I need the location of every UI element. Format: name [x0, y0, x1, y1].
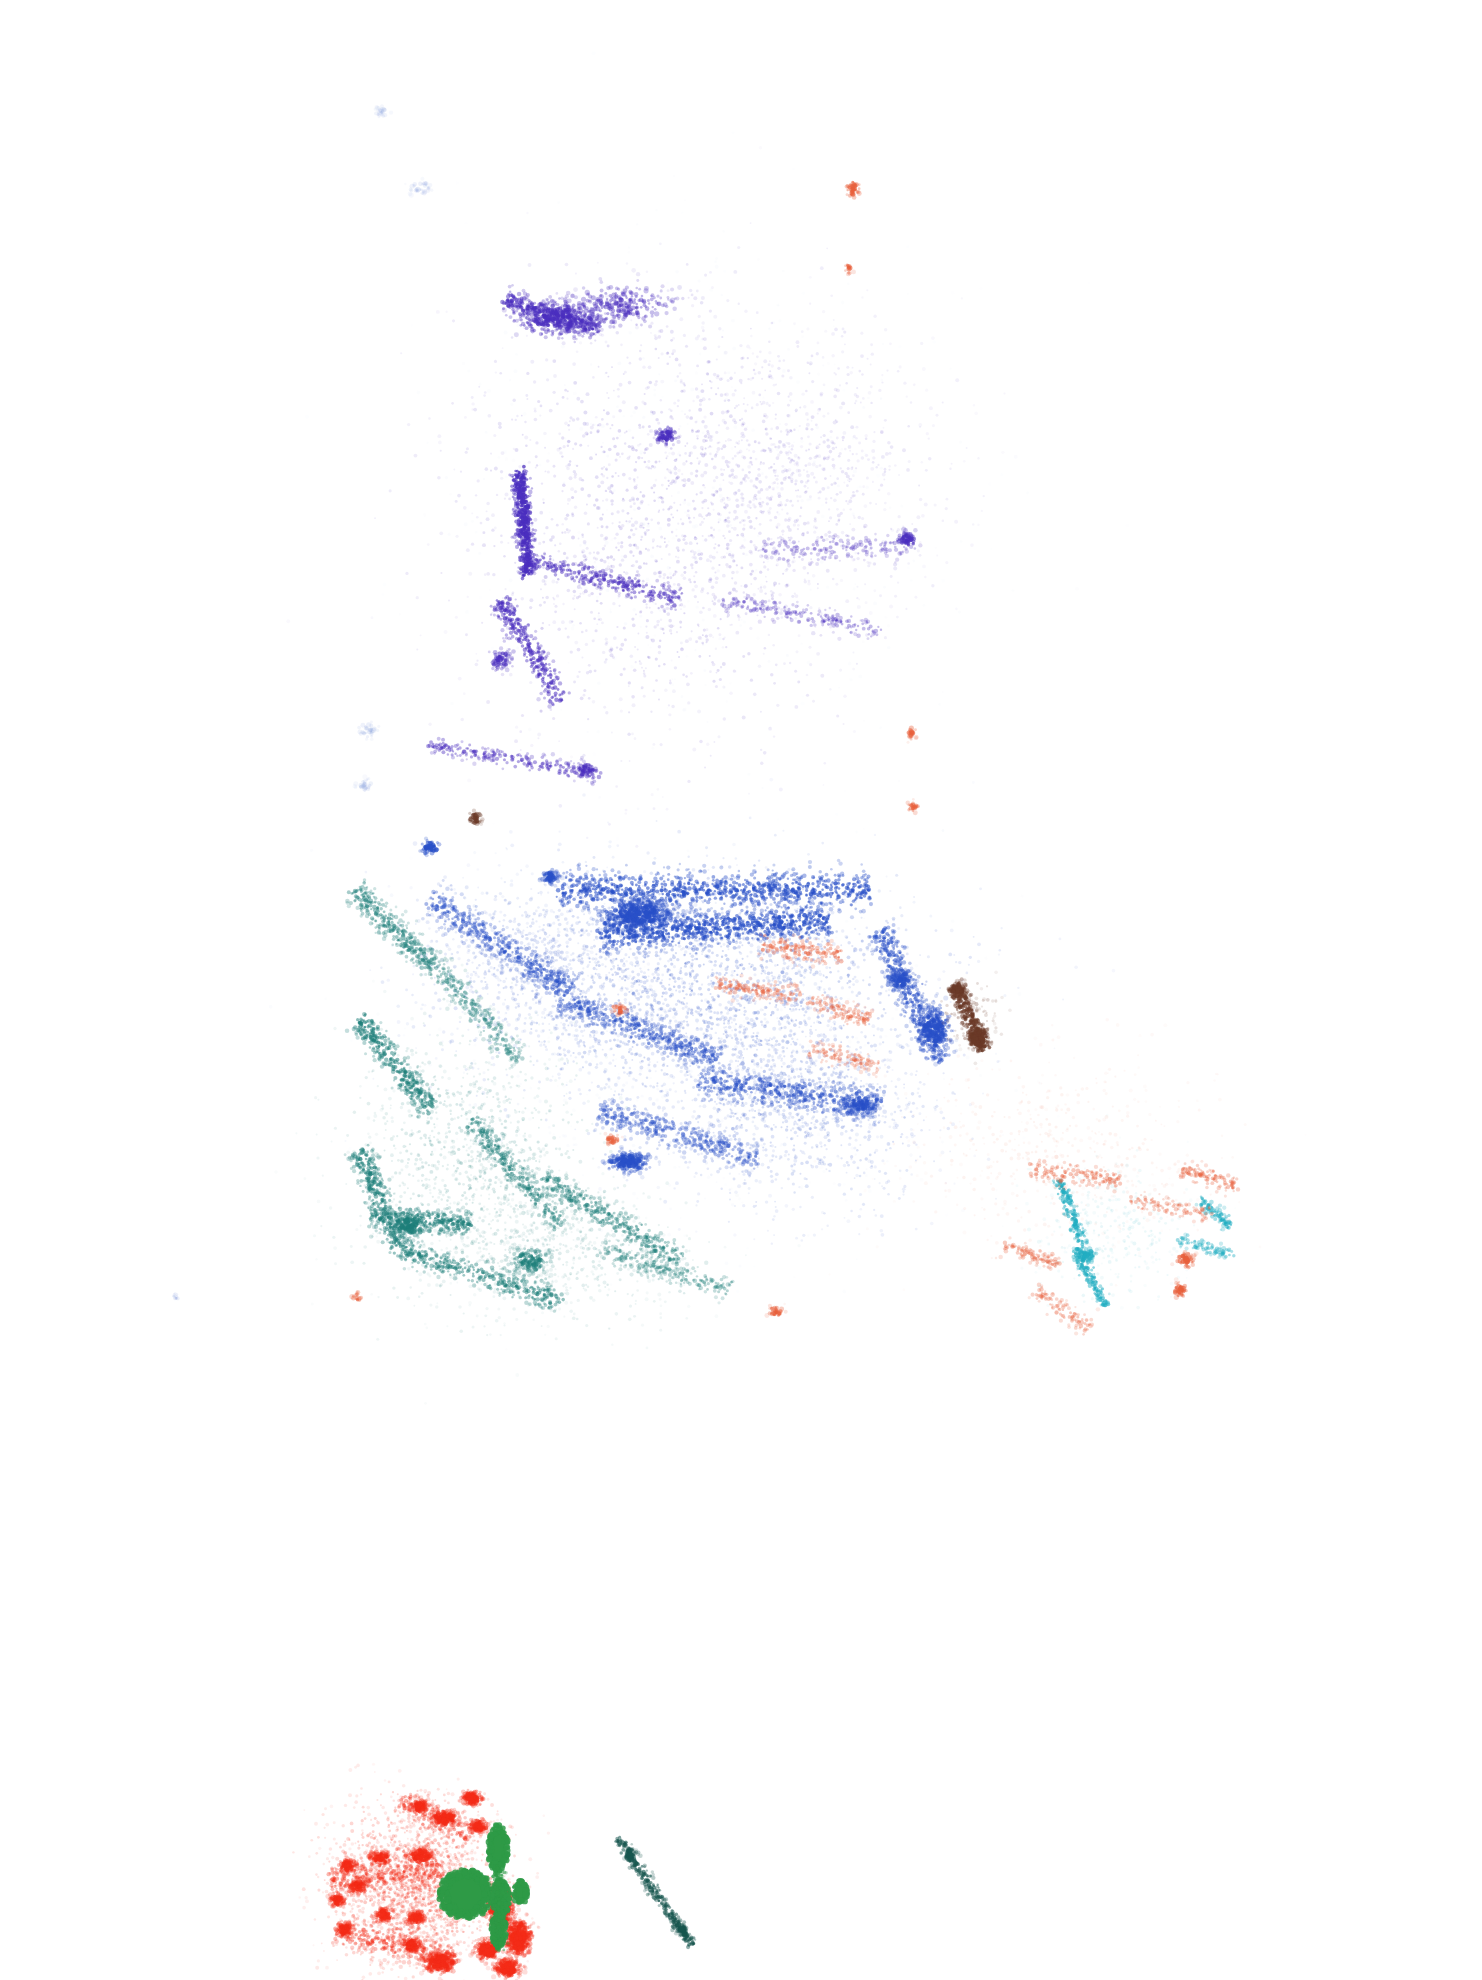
scatter-plot-figure	[0, 0, 1482, 1980]
scatter-point-cloud-canvas	[0, 0, 1482, 1980]
